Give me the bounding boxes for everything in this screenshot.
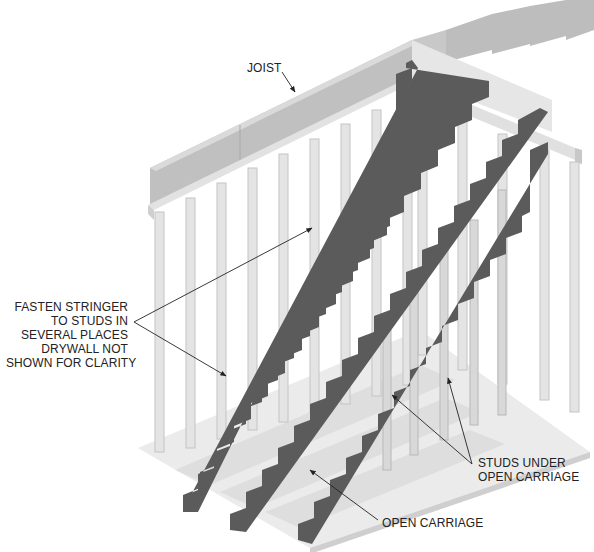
fasten-line-1: FASTEN STRINGER: [6, 300, 128, 314]
studs-line-2: OPEN CARRIAGE: [478, 470, 579, 484]
joist-label: JOIST: [247, 61, 282, 75]
joist-leader: [282, 72, 295, 92]
fasten-line-2: TO STUDS IN: [6, 314, 128, 328]
open-carriage-label: OPEN CARRIAGE: [382, 516, 483, 530]
studs-under-carriage-label: STUDS UNDER OPEN CARRIAGE: [478, 456, 579, 484]
fasten-stringer-label: FASTEN STRINGER TO STUDS IN SEVERAL PLAC…: [6, 300, 128, 370]
fasten-leader-lower: [134, 322, 226, 376]
fasten-line-4: DRYWALL NOT: [6, 342, 128, 356]
studs-line-1: STUDS UNDER: [478, 456, 579, 470]
fasten-line-5: SHOWN FOR CLARITY: [6, 356, 128, 370]
fasten-line-3: SEVERAL PLACES: [6, 328, 128, 342]
